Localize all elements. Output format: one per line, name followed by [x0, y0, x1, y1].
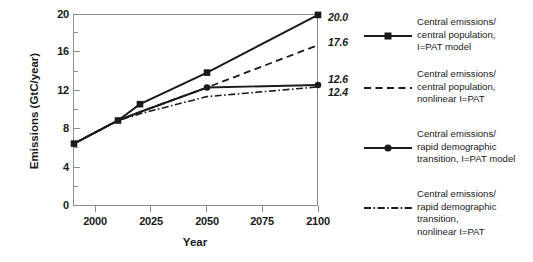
xtick-label-2025: 2025 — [129, 216, 173, 227]
series-central-ipat-line — [74, 15, 318, 144]
xtick-label-2075: 2075 — [240, 216, 284, 227]
ytick-label-12: 12 — [43, 85, 69, 96]
ytick-label-4: 4 — [43, 162, 69, 173]
legend-swatch-solid-circle-icon — [362, 141, 414, 155]
legend-entry-rapid-ipat: Central emissions/ rapid demographic tra… — [362, 128, 515, 166]
axis-spines — [73, 14, 318, 206]
legend-label-central-ipat: Central emissions/ central population, I… — [414, 16, 496, 54]
legend-entry-rapid-nonlinear: Central emissions/ rapid demographic tra… — [362, 188, 496, 238]
legend-swatch-solid-square-icon — [362, 29, 414, 43]
endpoint-label-rapid-ipat: 12.6 — [328, 73, 348, 85]
x-major-ticks — [95, 206, 318, 212]
xtick-label-2000: 2000 — [73, 216, 117, 227]
series-central-nonlinear-line — [74, 45, 318, 144]
endpoint-label-rapid-nonlinear: 12.4 — [328, 86, 348, 98]
ytick-label-0: 0 — [43, 200, 69, 211]
endpoint-label-central-ipat: 20.0 — [328, 11, 348, 23]
legend-swatch-dashed-icon — [362, 81, 414, 95]
ytick-label-8: 8 — [43, 123, 69, 134]
legend-label-rapid-ipat: Central emissions/ rapid demographic tra… — [414, 128, 515, 166]
endpoint-label-central-nonlinear: 17.6 — [328, 36, 348, 48]
series-rapid-ipat-line — [74, 85, 318, 144]
series-rapid-nonlinear-line — [74, 87, 318, 144]
emissions-projection-figure: 20 16 12 8 4 0 2000 2025 2050 2075 2100 … — [0, 0, 533, 262]
xtick-label-2100: 2100 — [296, 216, 340, 227]
legend-entry-central-ipat: Central emissions/ central population, I… — [362, 16, 496, 54]
legend-label-rapid-nonlinear: Central emissions/ rapid demographic tra… — [414, 188, 496, 238]
ytick-label-20: 20 — [43, 9, 69, 20]
x-axis-title: Year — [120, 236, 270, 248]
y-axis-title: Emissions (GtC/year) — [28, 31, 40, 191]
legend-swatch-dashdot-icon — [362, 201, 414, 215]
xtick-label-2050: 2050 — [185, 216, 229, 227]
legend-label-central-nonlinear: Central emissions/ central population, n… — [414, 68, 496, 106]
legend-entry-central-nonlinear: Central emissions/ central population, n… — [362, 68, 496, 106]
ytick-label-16: 16 — [43, 46, 69, 57]
